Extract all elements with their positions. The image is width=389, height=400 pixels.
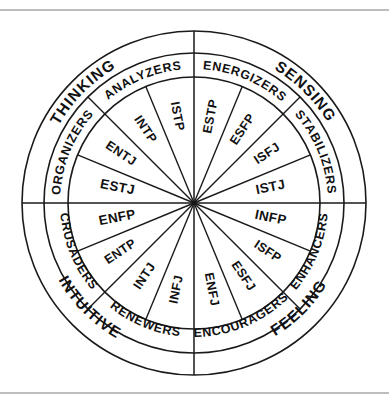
type-code-label-infj: INFJ bbox=[166, 274, 185, 305]
type-code-label-istj: ISTJ bbox=[254, 177, 286, 198]
type-code-label-isfp: ISFP bbox=[252, 237, 284, 265]
type-code-label-estp: ESTP bbox=[200, 98, 220, 135]
middle-ring-label-energizers: ENERGIZERS bbox=[202, 58, 289, 104]
personality-wheel-diagram: SENSINGFEELINGINTUITIVETHINKING ENERGIZE… bbox=[0, 0, 389, 400]
type-code-label-enfj: ENFJ bbox=[202, 271, 222, 307]
wheel-canvas: SENSINGFEELINGINTUITIVETHINKING ENERGIZE… bbox=[0, 0, 389, 400]
middle-spoke bbox=[283, 97, 300, 114]
type-code-label-entp: ENTP bbox=[102, 236, 139, 267]
type-code-label-esfp: ESFP bbox=[227, 111, 258, 147]
type-code-label-isfj: ISFJ bbox=[251, 140, 282, 167]
outer-label-group: SENSINGFEELINGINTUITIVETHINKING bbox=[47, 56, 340, 342]
middle-ring-label-enhancers: ENHANCERS bbox=[287, 212, 331, 292]
type-code-label-infp: INFP bbox=[254, 207, 288, 228]
type-code-label-enfp: ENFP bbox=[97, 206, 137, 228]
type-code-label-intj: INTJ bbox=[131, 260, 159, 292]
type-code-label-estj: ESTJ bbox=[99, 176, 136, 198]
type-code-label-istp: ISTP bbox=[168, 100, 188, 132]
type-code-label-intp: INTP bbox=[131, 113, 159, 146]
